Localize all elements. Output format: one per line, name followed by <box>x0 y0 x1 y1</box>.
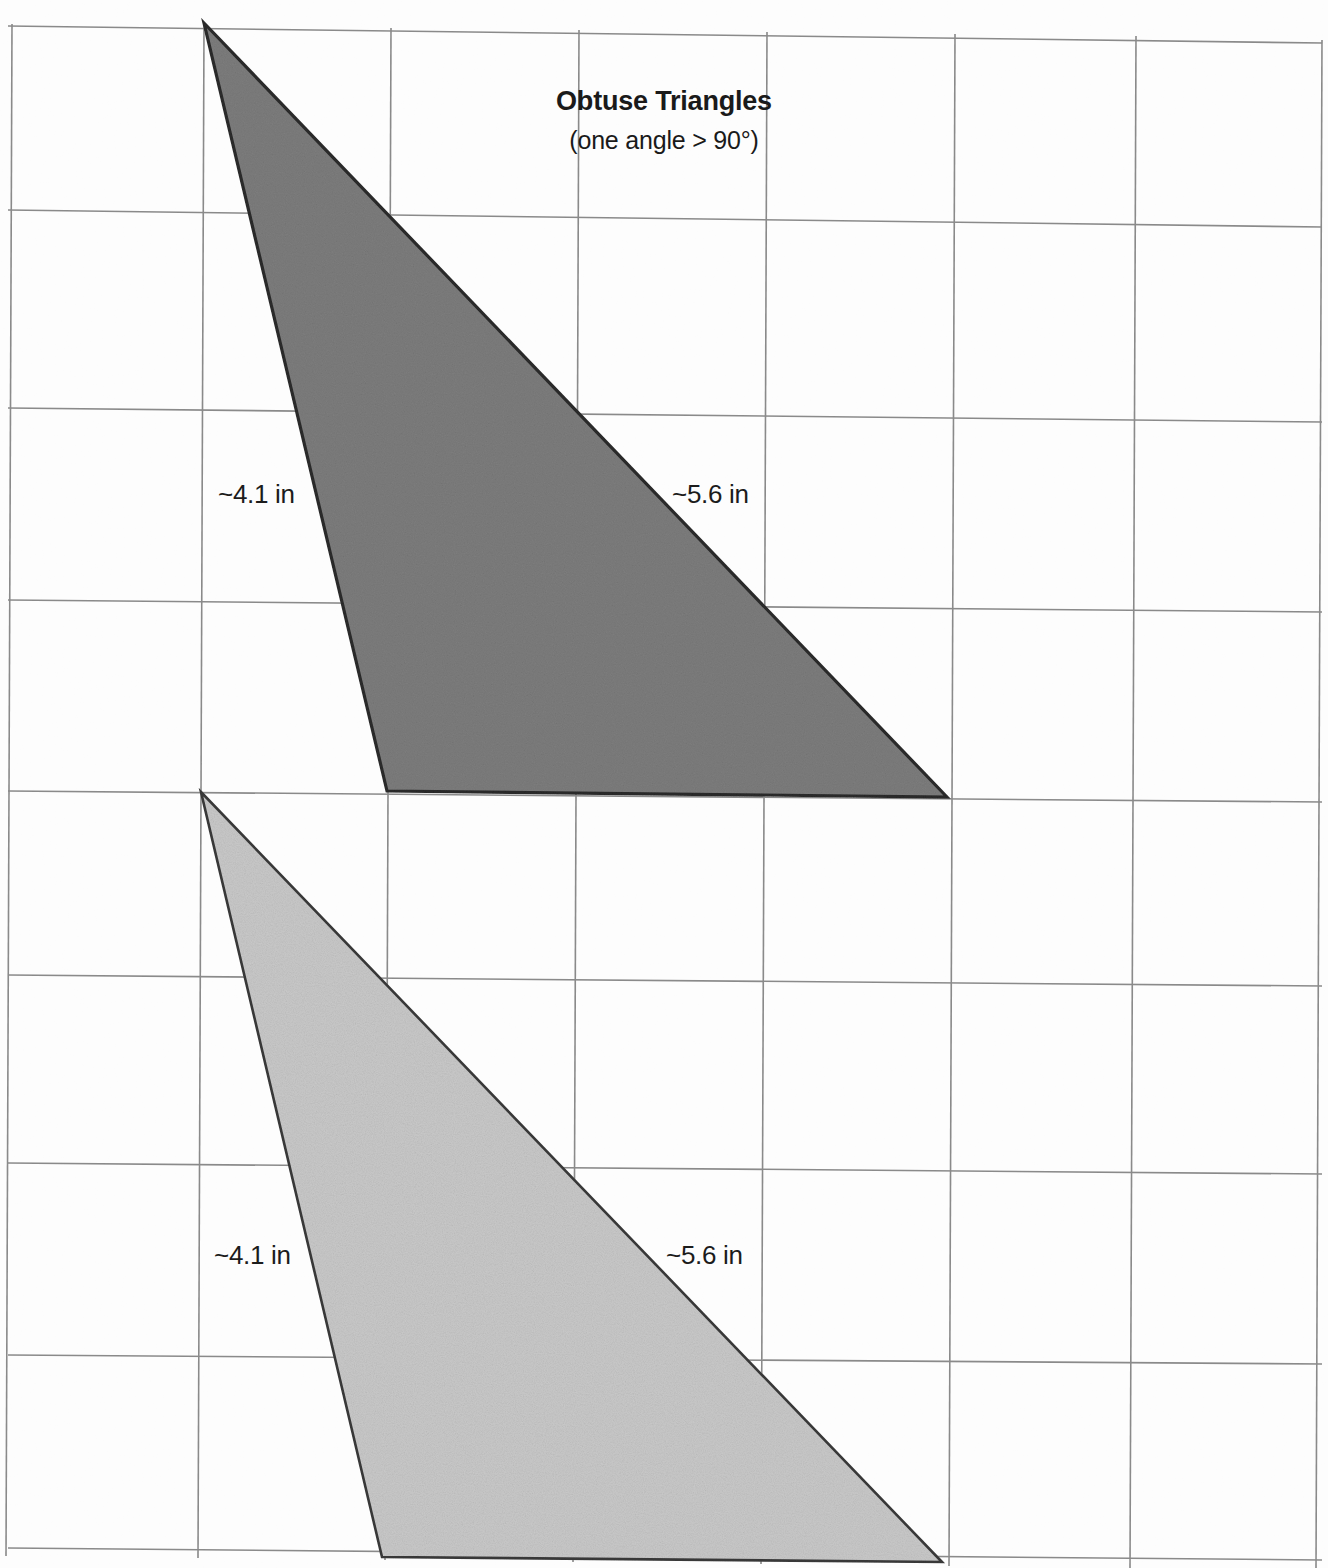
scan-noise-overlay <box>0 0 1328 1568</box>
worksheet-page: Obtuse Triangles (one angle > 90°) ~4.1 … <box>0 0 1328 1568</box>
triangle-dark-left-side-label: ~4.1 in <box>218 479 295 510</box>
triangle-light-right-side-label: ~5.6 in <box>666 1240 743 1271</box>
geometry-canvas <box>0 0 1328 1568</box>
page-subtitle: (one angle > 90°) <box>0 126 1328 155</box>
triangle-light-left-side-label: ~4.1 in <box>214 1240 291 1271</box>
triangle-dark-right-side-label: ~5.6 in <box>672 479 749 510</box>
page-title: Obtuse Triangles <box>0 86 1328 117</box>
